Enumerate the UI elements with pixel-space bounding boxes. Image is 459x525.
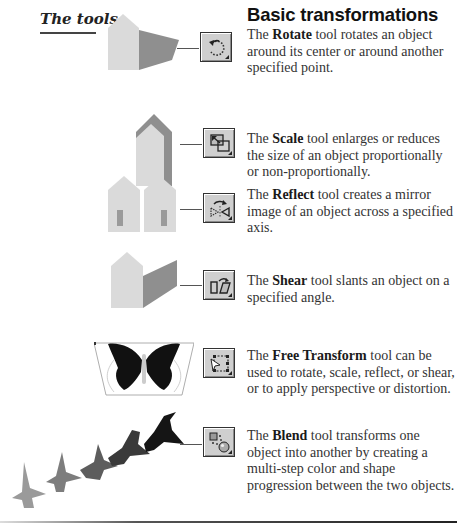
section-heading: Basic transformations [247, 4, 438, 26]
blend-description: The Blend tool transforms one object int… [247, 428, 457, 494]
shear-tool-icon [209, 275, 231, 297]
blend-tool-icon [209, 432, 231, 454]
free-transform-description: The Free Transform tool can be used to r… [247, 348, 457, 398]
scale-tool-icon [209, 133, 231, 155]
reflect-connector-line [180, 209, 202, 210]
blend-connector-line [180, 444, 202, 445]
reflect-example-illustration [108, 174, 178, 232]
rotate-tool-icon [206, 37, 228, 59]
shear-connector-line [180, 285, 202, 286]
reflect-tool-button[interactable] [203, 193, 235, 223]
rotate-connector-line [177, 48, 199, 49]
blend-tool-button[interactable] [203, 427, 235, 457]
free-transform-tool-icon [209, 353, 231, 375]
shear-description: The Shear tool slants an object on a spe… [247, 273, 457, 306]
free-transform-example-illustration [94, 340, 194, 400]
blend-example-illustration [4, 408, 184, 516]
free-transform-tool-button[interactable] [203, 348, 235, 378]
page-bottom-rule [0, 521, 457, 523]
sidebar-title: The tools [40, 10, 118, 28]
rotate-description: The Rotate tool rotates an object around… [247, 27, 457, 77]
rotate-example-illustration [108, 12, 183, 72]
scale-tool-button[interactable] [203, 128, 235, 158]
scale-connector-line [180, 144, 202, 145]
reflect-tool-icon [209, 198, 231, 220]
scale-description: The Scale tool enlarges or reduces the s… [247, 131, 457, 181]
sidebar-title-underline [40, 32, 96, 34]
shear-example-illustration [111, 250, 181, 308]
shear-tool-button[interactable] [203, 270, 235, 300]
rotate-tool-button[interactable] [200, 32, 232, 62]
reflect-description: The Reflect tool creates a mirror image … [247, 187, 457, 237]
